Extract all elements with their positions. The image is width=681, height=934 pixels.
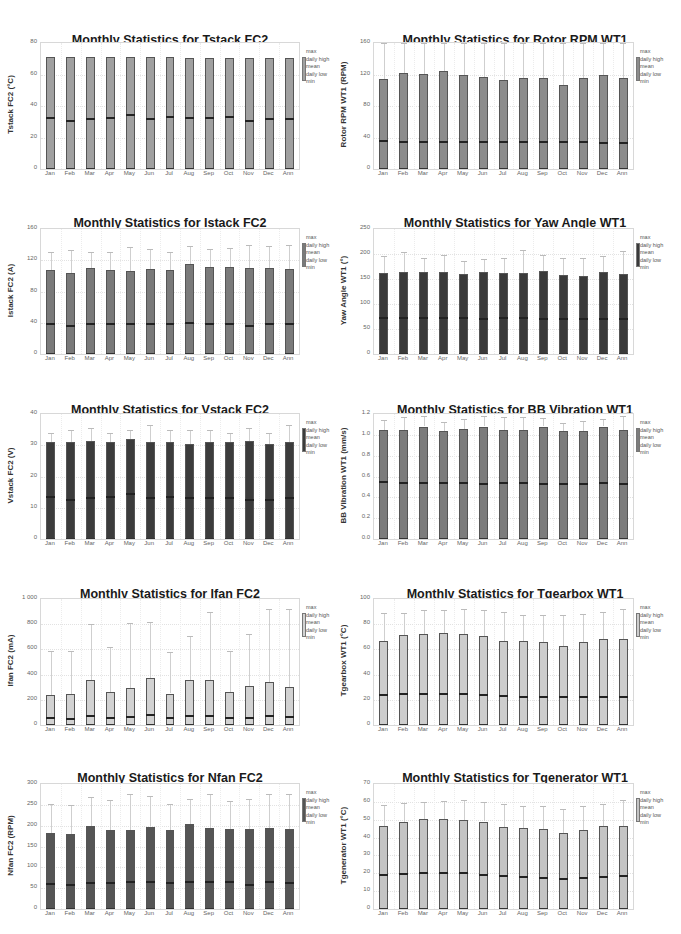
y-tick-label: 80 xyxy=(11,287,37,293)
max-cap xyxy=(401,613,407,614)
max-whisker xyxy=(583,43,584,78)
x-tick-label: Nov xyxy=(238,540,258,546)
bar-jun xyxy=(479,427,488,540)
max-whisker xyxy=(210,249,211,267)
bar-mar xyxy=(419,634,428,725)
y-tick-label: 50 xyxy=(344,815,370,821)
max-cap xyxy=(481,416,487,417)
bar-oct xyxy=(559,431,568,539)
gridline xyxy=(41,649,299,650)
legend-text: maxdaily highmeandaily lowmin xyxy=(640,604,663,642)
legend-item: max xyxy=(306,419,329,427)
gridline xyxy=(41,445,299,446)
vertical-gridline xyxy=(279,784,280,909)
vertical-gridline xyxy=(220,784,221,909)
y-tick-label: 0 xyxy=(344,720,370,726)
bar-mar xyxy=(419,74,428,169)
mean-marker xyxy=(419,141,428,143)
vertical-gridline xyxy=(394,43,395,169)
x-tick-label: Jul xyxy=(493,540,513,546)
max-whisker xyxy=(603,43,604,75)
bar-oct xyxy=(225,829,234,909)
legend-text: maxdaily highmeandaily lowmin xyxy=(306,48,329,86)
min-marker xyxy=(619,908,628,909)
max-cap xyxy=(127,794,133,795)
max-cap xyxy=(401,252,407,253)
vertical-gridline xyxy=(239,229,240,354)
max-cap xyxy=(207,249,213,250)
bar-sep xyxy=(205,58,214,169)
bar-feb xyxy=(399,822,408,910)
min-marker xyxy=(126,353,135,354)
x-tick-label: Nov xyxy=(238,170,258,176)
max-whisker xyxy=(504,258,505,274)
max-whisker xyxy=(384,420,385,429)
max-whisker xyxy=(464,43,465,75)
x-tick-label: Apr xyxy=(99,910,119,916)
vertical-gridline xyxy=(160,599,161,725)
x-tick-label: Apr xyxy=(433,910,453,916)
min-marker xyxy=(225,908,234,909)
min-marker xyxy=(185,538,194,539)
vertical-gridline xyxy=(593,599,594,725)
x-tick-label: Jan xyxy=(373,540,393,546)
max-cap xyxy=(286,794,292,795)
max-whisker xyxy=(150,622,151,679)
min-marker xyxy=(285,353,294,354)
x-tick-label: Feb xyxy=(393,726,413,732)
legend-item: daily low xyxy=(640,442,663,450)
vertical-gridline xyxy=(81,599,82,725)
bar-aug xyxy=(519,273,528,354)
min-marker xyxy=(499,538,508,539)
mean-marker xyxy=(205,117,214,119)
mean-marker xyxy=(205,323,214,325)
gridline xyxy=(41,106,299,107)
min-marker xyxy=(559,724,568,725)
vertical-gridline xyxy=(180,414,181,539)
max-whisker xyxy=(51,252,52,271)
mean-marker xyxy=(539,318,548,320)
max-cap xyxy=(48,433,54,434)
bar-nov xyxy=(579,78,588,169)
min-marker xyxy=(146,724,155,725)
vertical-gridline xyxy=(533,599,534,725)
max-whisker xyxy=(190,799,191,824)
mean-marker xyxy=(479,318,488,320)
bar-jun xyxy=(479,272,488,354)
gridline xyxy=(374,891,633,892)
vertical-gridline xyxy=(553,784,554,909)
vertical-gridline xyxy=(101,414,102,539)
max-whisker xyxy=(444,255,445,272)
bar-jun xyxy=(146,827,155,910)
vertical-gridline xyxy=(573,784,574,909)
y-tick-label: 40 xyxy=(11,318,37,324)
plot-area xyxy=(40,228,300,355)
max-cap xyxy=(401,803,407,804)
max-cap xyxy=(461,43,467,44)
gridline xyxy=(41,700,299,701)
x-tick-label: Sep xyxy=(199,170,219,176)
y-tick-label: 0 xyxy=(11,534,37,540)
y-tick-label: 1 000 xyxy=(11,594,37,600)
mean-marker xyxy=(126,323,135,325)
y-tick-label: 200 xyxy=(11,821,37,827)
min-marker xyxy=(399,168,408,169)
max-cap xyxy=(381,256,387,257)
mean-marker xyxy=(519,317,528,319)
x-tick-label: Ann xyxy=(278,540,298,546)
max-cap xyxy=(187,246,193,247)
min-marker xyxy=(46,538,55,539)
max-whisker xyxy=(289,609,290,687)
min-marker xyxy=(599,724,608,725)
x-tick-label: Mar xyxy=(413,170,433,176)
x-tick-label: Dec xyxy=(592,355,612,361)
mean-marker xyxy=(126,114,135,116)
max-cap xyxy=(107,800,113,801)
chart-9: Monthly Statistics for Nfan FC2 Nfan FC2… xyxy=(0,0,681,934)
max-cap xyxy=(481,259,487,260)
min-marker xyxy=(619,168,628,169)
max-cap xyxy=(286,245,292,246)
min-marker xyxy=(559,908,568,909)
x-tick-label: Nov xyxy=(238,355,258,361)
vertical-gridline xyxy=(101,599,102,725)
